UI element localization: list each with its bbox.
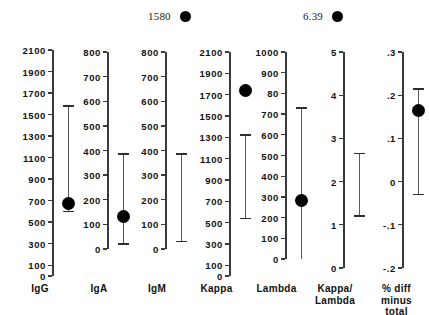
y-axis-tick-label: 700 [186, 196, 223, 207]
y-axis-tick [103, 248, 107, 249]
y-axis-tick-label: 700 [128, 71, 159, 82]
y-axis-tick-label: 0 [306, 263, 337, 274]
y-axis-tick [103, 224, 107, 225]
y-axis-tick-label: 2 [306, 176, 337, 187]
y-axis-tick [48, 265, 52, 266]
y-axis-tick-label: 5 [306, 47, 337, 58]
y-axis-tick-label: 3 [306, 133, 337, 144]
y-axis-tick-label: 600 [70, 96, 101, 107]
y-axis-tick [281, 134, 285, 135]
y-axis-tick-label: 500 [186, 217, 223, 228]
y-axis-tick [281, 51, 285, 52]
y-axis-tick-label: 0 [128, 244, 159, 255]
y-axis-tick-label: 500 [70, 120, 101, 131]
y-axis-tick-label: 200 [70, 194, 101, 205]
y-axis-tick [225, 73, 229, 74]
y-axis-tick-label: 500 [10, 217, 46, 228]
y-axis-tick [225, 51, 229, 52]
data-point-marker [412, 104, 425, 117]
y-axis-tick-label: 0 [247, 254, 279, 265]
y-axis-line [107, 52, 109, 249]
y-axis-tick-label: 1900 [186, 68, 223, 79]
y-axis-tick [161, 174, 165, 175]
y-axis-tick [48, 275, 52, 276]
y-axis-line [343, 52, 345, 268]
y-axis-tick [281, 196, 285, 197]
y-axis-tick-label: 100 [186, 260, 223, 271]
range-cap-upper [413, 88, 424, 90]
y-axis-tick [281, 113, 285, 114]
y-axis-tick-label: 300 [186, 239, 223, 250]
panel-kappalambda: 012345Kappa/ Lambda [306, 0, 364, 315]
y-axis-tick [103, 125, 107, 126]
y-axis-line [229, 52, 231, 276]
y-axis-tick [281, 217, 285, 218]
y-axis-tick [225, 275, 229, 276]
y-axis-tick-label: 2100 [186, 47, 223, 58]
y-axis-tick-label: 300 [70, 170, 101, 181]
y-axis-tick [48, 114, 52, 115]
y-axis-tick-label: 1000 [247, 47, 279, 58]
y-axis-line [52, 50, 54, 276]
y-axis-tick-label: 300 [10, 238, 46, 249]
y-axis-tick [225, 265, 229, 266]
y-axis-tick [161, 150, 165, 151]
y-axis-tick [48, 71, 52, 72]
y-axis-tick-label: 400 [128, 145, 159, 156]
y-axis-tick-label: .2 [364, 90, 396, 101]
y-axis-tick-label: 800 [70, 47, 101, 58]
y-axis-tick [48, 243, 52, 244]
y-axis-line [402, 52, 404, 268]
y-axis-tick-label: 1500 [10, 109, 46, 120]
y-axis-tick-label: 4 [306, 90, 337, 101]
y-axis-tick [161, 248, 165, 249]
range-cap-lower [413, 194, 424, 196]
y-axis-tick-label: 1700 [10, 88, 46, 99]
panel-kappa: 0100300500700900110013001500170019002100… [186, 0, 247, 315]
y-axis-tick [281, 155, 285, 156]
y-axis-tick-label: 100 [247, 233, 279, 244]
y-axis-tick [161, 76, 165, 77]
panel-igg: 0100300500700900110013001500170019002100… [10, 0, 70, 315]
y-axis-tick [339, 224, 343, 225]
y-axis-tick-label: 700 [70, 71, 101, 82]
x-axis-category-label: % diff minus total [364, 283, 429, 315]
y-axis-tick [398, 267, 402, 268]
y-axis-tick [103, 150, 107, 151]
y-axis-tick-label: 200 [128, 194, 159, 205]
reference-range-bar [181, 154, 182, 241]
y-axis-tick [48, 135, 52, 136]
y-axis-tick-label: 500 [247, 150, 279, 161]
y-axis-tick [281, 176, 285, 177]
y-axis-tick-label: 80 [247, 88, 279, 99]
x-axis-category-label: Lambda [247, 283, 306, 295]
chart-figure: 1580 6.39 010030050070090011001300150017… [0, 0, 429, 315]
y-axis-tick-label: 1300 [186, 132, 223, 143]
y-axis-tick [225, 158, 229, 159]
y-axis-tick [48, 200, 52, 201]
y-axis-tick-label: 1100 [186, 153, 223, 164]
y-axis-tick [398, 51, 402, 52]
y-axis-tick-label: 800 [128, 47, 159, 58]
y-axis-tick [161, 199, 165, 200]
y-axis-tick-label: -.2 [364, 263, 396, 274]
x-axis-category-label: IgM [128, 283, 186, 295]
x-axis-category-label: Kappa [186, 283, 247, 295]
y-axis-tick-label: 1700 [186, 89, 223, 100]
x-axis-category-label: Kappa/ Lambda [306, 283, 364, 306]
y-axis-tick [161, 51, 165, 52]
y-axis-tick-label: 700 [247, 109, 279, 120]
y-axis-tick-label: 100 [128, 219, 159, 230]
y-axis-tick [103, 76, 107, 77]
y-axis-tick-label: 300 [247, 191, 279, 202]
y-axis-tick [161, 101, 165, 102]
y-axis-tick-label: 600 [247, 129, 279, 140]
y-axis-tick [103, 174, 107, 175]
y-axis-tick [48, 49, 52, 50]
x-axis-category-label: IgA [70, 283, 128, 295]
y-axis-tick-label: 1300 [10, 131, 46, 142]
y-axis-tick [48, 221, 52, 222]
y-axis-tick [281, 258, 285, 259]
y-axis-tick-label: 400 [247, 171, 279, 182]
y-axis-tick [225, 115, 229, 116]
